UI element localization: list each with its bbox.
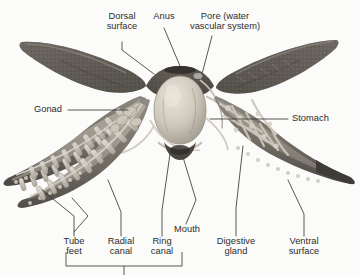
label-gonad-text: Gonad xyxy=(34,104,62,114)
label-tube-feet: Tubefeet xyxy=(52,236,96,257)
leader-mouth xyxy=(183,157,196,224)
label-radial-canal-line1: Radial xyxy=(108,236,134,246)
label-mouth-text: Mouth xyxy=(174,224,200,234)
madreporite-pore xyxy=(194,73,203,79)
label-ring-canal-line1: Ring xyxy=(152,236,171,246)
label-tube-feet-line2: feet xyxy=(66,246,82,256)
label-digestive-gland: Digestivegland xyxy=(206,236,266,257)
label-pore-line2: vascular system) xyxy=(190,21,260,31)
label-pore-line1: Pore (water xyxy=(201,11,249,21)
label-dorsal-surface-line1: Dorsal xyxy=(109,11,136,21)
leader-ventral-surface xyxy=(288,180,304,236)
label-digestive-gland-line1: Digestive xyxy=(217,236,255,246)
label-pore: Pore (watervascular system) xyxy=(172,11,278,32)
leader-radial-canal xyxy=(108,180,121,236)
anus-opening xyxy=(164,66,196,74)
leader-digestive-gland xyxy=(236,146,243,236)
label-stomach-text: Stomach xyxy=(292,113,329,123)
specimen-illustration xyxy=(4,40,355,208)
leader-anus xyxy=(164,28,180,66)
leader-dorsal-surface xyxy=(122,42,154,74)
label-ventral-surface: Ventralsurface xyxy=(276,236,332,257)
label-ventral-surface-line2: surface xyxy=(289,246,320,256)
label-ring-canal: Ringcanal xyxy=(140,236,184,257)
label-ring-canal-line2: canal xyxy=(151,246,173,256)
label-dorsal-surface-line2: surface xyxy=(107,21,138,31)
label-tube-feet-line1: Tube xyxy=(64,236,85,246)
label-ventral-surface-line1: Ventral xyxy=(289,236,318,246)
label-gonad: Gonad xyxy=(10,104,62,114)
label-stomach: Stomach xyxy=(292,113,356,123)
mouth-region xyxy=(164,142,196,160)
label-radial-canal: Radialcanal xyxy=(97,236,145,257)
stomach-organ xyxy=(154,76,206,144)
mouth-opening xyxy=(170,145,190,155)
label-radial-canal-line2: canal xyxy=(110,246,132,256)
arm-right-ventral-opened xyxy=(214,96,355,184)
label-digestive-gland-line2: gland xyxy=(225,246,248,256)
leader-pore xyxy=(202,36,212,74)
label-mouth: Mouth xyxy=(162,224,212,234)
arm-upper-right-dorsal xyxy=(216,40,338,94)
arm-upper-left-dorsal xyxy=(20,42,146,93)
